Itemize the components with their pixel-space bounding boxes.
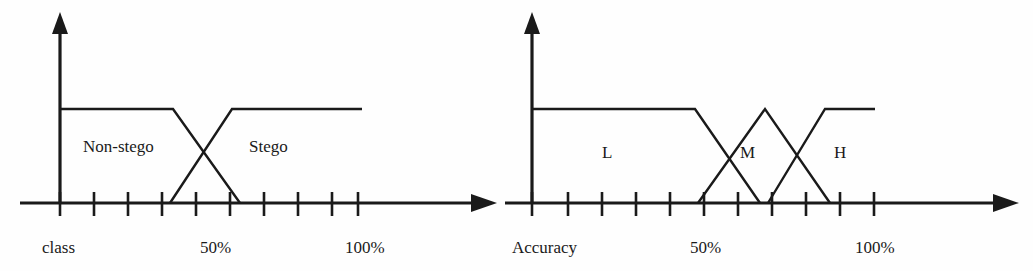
right-chart-curve-low [532, 109, 760, 203]
right-chart: L M H Accuracy 50% 100% [505, 12, 1019, 257]
right-chart-tick-label-50: 50% [690, 238, 721, 257]
right-chart-y-axis-arrowhead [524, 12, 540, 34]
figure-root: Non-stego Stego class 50% 100% [0, 0, 1033, 271]
right-chart-x-axis-label: Accuracy [512, 238, 578, 257]
left-chart-region-label-stego: Stego [249, 137, 288, 156]
left-chart-tick-label-50: 50% [200, 238, 231, 257]
left-chart-x-axis-arrowhead [471, 194, 497, 212]
left-chart-region-label-non-stego: Non-stego [83, 137, 154, 156]
fuzzy-membership-figure: Non-stego Stego class 50% 100% [0, 0, 1033, 271]
left-chart-curve-non-stego [60, 109, 240, 203]
left-chart-x-axis-label: class [42, 238, 75, 257]
right-chart-tick-label-100: 100% [855, 238, 895, 257]
left-chart-y-axis-arrowhead [52, 12, 68, 34]
right-chart-x-axis-arrowhead [993, 194, 1019, 212]
right-chart-region-label-low: L [602, 143, 612, 162]
right-chart-region-label-medium: M [740, 143, 755, 162]
right-chart-curve-medium [698, 109, 830, 203]
right-chart-region-label-high: H [834, 143, 846, 162]
left-chart-curve-stego [170, 109, 362, 203]
left-chart-tick-label-100: 100% [345, 238, 385, 257]
left-chart: Non-stego Stego class 50% 100% [20, 12, 497, 257]
